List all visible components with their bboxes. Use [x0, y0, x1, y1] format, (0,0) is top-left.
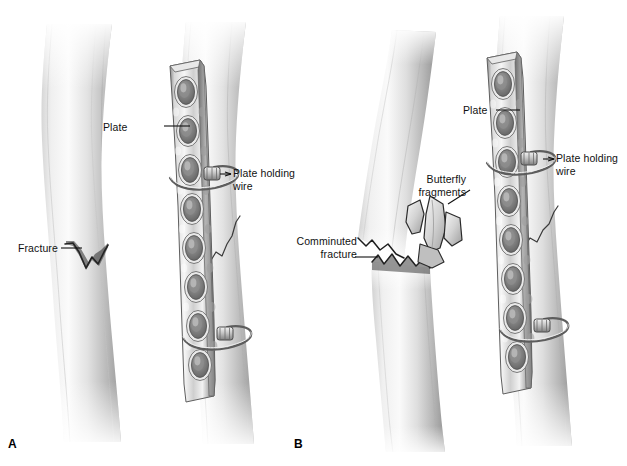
panel-letter-a: A: [8, 437, 17, 451]
illustration-canvas: [0, 0, 627, 466]
panel-letter-b: B: [294, 437, 303, 451]
annotation-comminuted-fracture: Comminuted fracture: [290, 235, 357, 260]
annotation-plate-holding-wire-a: Plate holding wire: [233, 167, 295, 192]
annotation-plate-b: Plate: [463, 104, 487, 117]
annotation-plate-holding-wire-b: Plate holding wire: [556, 152, 618, 177]
annotation-fracture-a: Fracture: [18, 242, 58, 255]
annotation-butterfly-fragments: Butterfly fragments: [408, 173, 466, 198]
medical-illustration-figure: Plate Plate holding wire Fracture Plate …: [0, 0, 627, 466]
annotation-plate-a: Plate: [103, 121, 127, 134]
